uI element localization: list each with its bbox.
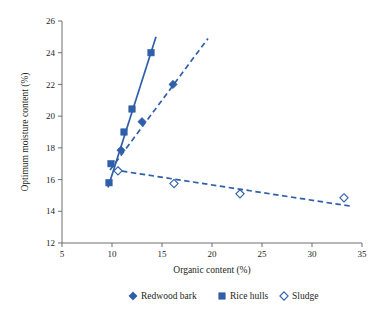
data-point: [170, 179, 178, 187]
x-tick-label: 20: [208, 249, 218, 259]
x-axis-title: Organic content (%): [173, 265, 250, 276]
legend-marker: [129, 292, 137, 300]
y-tick-label: 26: [46, 16, 56, 26]
y-axis: 1214161820222426: [46, 16, 62, 248]
legend-marker: [280, 292, 288, 300]
x-tick-label: 25: [258, 249, 268, 259]
y-tick-label: 20: [46, 111, 56, 121]
axis-lines: [62, 21, 362, 243]
data-point: [129, 106, 135, 112]
x-tick-label: 10: [108, 249, 118, 259]
data-point: [106, 180, 112, 186]
data-point: [121, 129, 127, 135]
y-tick-label: 14: [46, 206, 56, 216]
x-tick-label: 35: [358, 249, 368, 259]
x-tick-label: 15: [158, 249, 168, 259]
x-tick-label: 30: [308, 249, 318, 259]
legend-marker: [219, 293, 225, 299]
data-point: [148, 50, 154, 56]
axes-group: [62, 21, 362, 243]
data-point: [340, 194, 348, 202]
y-axis-title: Optimum moisture content (%): [20, 73, 31, 192]
x-axis: 5101520253035: [60, 243, 367, 259]
series-sludge: [113, 167, 353, 207]
legend-label: Rice hulls: [230, 291, 269, 301]
series-rice-hulls: [106, 37, 156, 188]
data-point: [108, 161, 114, 167]
y-tick-label: 24: [46, 48, 56, 58]
data-point: [114, 167, 122, 175]
series-redwood-bark: [110, 38, 208, 170]
y-tick-label: 12: [46, 238, 55, 248]
x-tick-label: 5: [60, 249, 65, 259]
scatter-chart: 12141618202224265101520253035Organic con…: [0, 0, 379, 321]
data-point: [236, 190, 244, 198]
trend-line: [113, 170, 353, 207]
y-tick-label: 18: [46, 143, 56, 153]
legend-label: Redwood bark: [141, 291, 197, 301]
legend-label: Sludge: [292, 291, 318, 301]
y-tick-label: 22: [46, 80, 55, 90]
y-tick-label: 16: [46, 175, 56, 185]
legend: Redwood barkRice hullsSludge: [129, 291, 318, 301]
